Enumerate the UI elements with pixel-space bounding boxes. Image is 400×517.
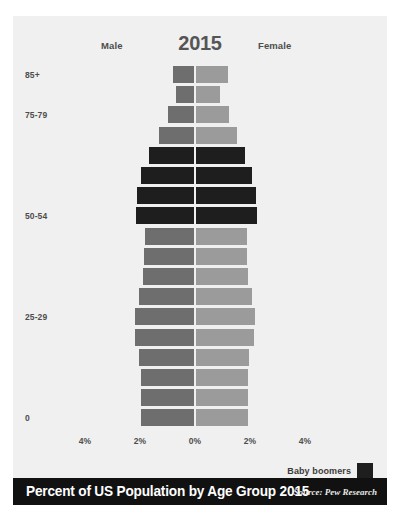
pyramid-row	[13, 308, 387, 325]
pyramid-row	[13, 369, 387, 386]
bar-male	[141, 167, 193, 184]
x-axis-tick-label: 2%	[244, 436, 256, 446]
y-axis-label: 85+	[25, 70, 40, 80]
bar-male	[141, 409, 194, 426]
bar-female	[196, 66, 228, 83]
bar-female	[196, 349, 249, 366]
footer-title: Percent of US Population by Age Group 20…	[26, 483, 309, 499]
bar-female	[196, 228, 246, 245]
bar-female	[196, 207, 257, 224]
chart-card: Male 2015 Female 85+75-7950-5425-290 4%2…	[13, 16, 387, 503]
bar-male	[135, 329, 194, 346]
bar-female	[196, 106, 228, 123]
chart-year-title: 2015	[13, 32, 387, 55]
pyramid-row	[13, 248, 387, 265]
y-axis-label: 50-54	[25, 211, 47, 221]
bar-male	[141, 369, 194, 386]
pyramid-row	[13, 228, 387, 245]
x-axis-ticks: 4%2%0%2%4%	[13, 436, 387, 452]
bar-female	[196, 248, 246, 265]
bar-female	[196, 187, 256, 204]
population-pyramid-plot: 85+75-7950-5425-290	[13, 66, 387, 433]
bar-male	[168, 106, 194, 123]
bar-male	[135, 308, 194, 325]
x-axis-tick-label: 4%	[299, 436, 311, 446]
female-side-label: Female	[258, 40, 291, 51]
x-axis-tick-label: 4%	[79, 436, 91, 446]
footer-source: Source: Pew Research	[294, 487, 378, 497]
pyramid-row	[13, 288, 387, 305]
pyramid-row	[13, 349, 387, 366]
pyramid-row	[13, 106, 387, 123]
bar-female	[196, 86, 220, 103]
pyramid-row	[13, 207, 387, 224]
bar-male	[137, 187, 193, 204]
bar-female	[196, 147, 245, 164]
bar-male	[173, 66, 194, 83]
pyramid-row	[13, 268, 387, 285]
bar-male	[136, 207, 194, 224]
bar-female	[196, 329, 254, 346]
bar-female	[196, 369, 248, 386]
pyramid-row	[13, 66, 387, 83]
pyramid-row	[13, 329, 387, 346]
bar-male	[149, 147, 194, 164]
pyramid-row	[13, 167, 387, 184]
bar-female	[196, 389, 248, 406]
bar-male	[139, 349, 194, 366]
bar-male	[139, 288, 194, 305]
pyramid-row	[13, 409, 387, 426]
chart-header: Male 2015 Female	[13, 32, 387, 62]
pyramid-row	[13, 127, 387, 144]
bar-female	[196, 288, 252, 305]
bar-female	[196, 308, 254, 325]
bar-male	[144, 248, 194, 265]
pyramid-row	[13, 187, 387, 204]
pyramid-row	[13, 389, 387, 406]
bar-male	[141, 389, 194, 406]
x-axis-tick-label: 2%	[134, 436, 146, 446]
y-axis-label: 0	[25, 413, 30, 423]
bar-male	[176, 86, 193, 103]
bar-male	[145, 228, 194, 245]
bar-female	[196, 167, 252, 184]
bar-female	[196, 127, 237, 144]
y-axis-label: 75-79	[25, 110, 47, 120]
pyramid-row	[13, 86, 387, 103]
bar-female	[196, 409, 248, 426]
x-axis-tick-label: 0%	[189, 436, 201, 446]
bar-male	[159, 127, 194, 144]
y-axis-label: 25-29	[25, 312, 47, 322]
infographic-page: Male 2015 Female 85+75-7950-5425-290 4%2…	[0, 0, 400, 517]
legend: Baby boomers	[287, 463, 373, 479]
pyramid-row	[13, 147, 387, 164]
bar-male	[143, 268, 193, 285]
legend-label: Baby boomers	[287, 466, 351, 476]
bar-female	[196, 268, 248, 285]
legend-swatch-baby-boomers	[357, 463, 373, 479]
footer-bar: Percent of US Population by Age Group 20…	[13, 478, 387, 505]
